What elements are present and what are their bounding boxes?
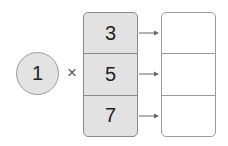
- output-column: [161, 12, 216, 137]
- multiplier-circle: 1: [16, 52, 59, 95]
- input-cell: 7: [84, 95, 137, 136]
- output-cell[interactable]: [162, 53, 215, 94]
- input-column: 3 5 7: [83, 12, 138, 137]
- output-cell[interactable]: [162, 13, 215, 53]
- output-cell[interactable]: [162, 95, 215, 136]
- input-cell: 3: [84, 13, 137, 53]
- arrow-right-icon: [139, 70, 159, 78]
- times-operator: ×: [64, 62, 80, 84]
- multiplier-value: 1: [32, 62, 43, 85]
- arrow-right-icon: [139, 112, 159, 120]
- arrow-right-icon: [139, 29, 159, 37]
- input-cell: 5: [84, 53, 137, 94]
